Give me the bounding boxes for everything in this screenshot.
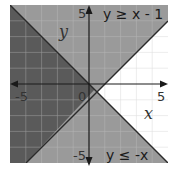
tick-x-pos5: 5 (157, 89, 165, 104)
inequality-label-bottom: y ≤ -x (106, 147, 148, 163)
inequality-label-top: y ≥ x - 1 (103, 6, 163, 22)
tick-x-neg5: -5 (15, 89, 28, 104)
tick-y-neg5: -5 (73, 148, 86, 163)
y-axis-label: y (58, 22, 69, 41)
inequality-graph: -5 0 5 5 -5 y x y ≥ x - 1 y ≤ -x (0, 0, 176, 174)
tick-origin: 0 (78, 89, 86, 104)
x-axis-label: x (144, 104, 153, 123)
tick-y-pos5: 5 (78, 6, 86, 21)
